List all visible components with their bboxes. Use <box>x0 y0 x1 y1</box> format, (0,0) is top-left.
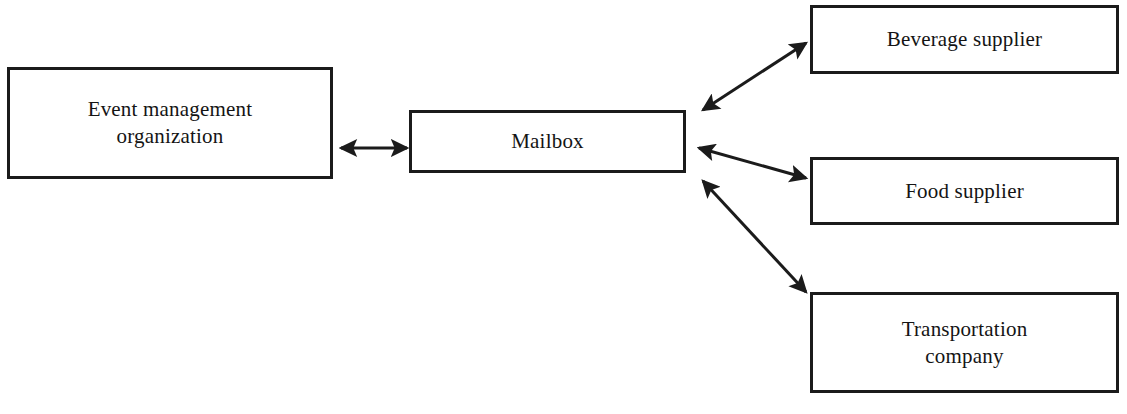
node-event-management-organization: Event management organization <box>7 67 333 179</box>
node-mailbox: Mailbox <box>409 110 686 173</box>
node-transportation-company: Transportation company <box>810 292 1119 393</box>
node-beverage-supplier-label: Beverage supplier <box>877 26 1053 53</box>
connector-mailbox-food <box>699 148 806 178</box>
node-food-supplier-label: Food supplier <box>895 178 1034 205</box>
node-food-supplier: Food supplier <box>810 157 1119 225</box>
connector-mailbox-transportation <box>703 181 806 292</box>
node-transportation-company-label: Transportation company <box>892 316 1038 370</box>
diagram-canvas: Event management organization Mailbox Be… <box>0 0 1127 414</box>
node-beverage-supplier: Beverage supplier <box>810 5 1119 74</box>
node-mailbox-label: Mailbox <box>501 128 594 155</box>
connector-mailbox-beverage <box>703 43 806 110</box>
node-event-management-organization-label: Event management organization <box>78 96 263 150</box>
